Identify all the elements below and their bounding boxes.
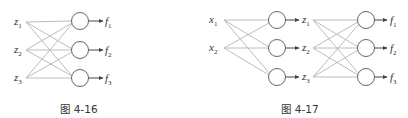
output-label-f3: f3 — [390, 71, 397, 86]
neuron-node — [358, 40, 375, 57]
edges-4-17-layer2 — [313, 20, 359, 77]
output-label-f1: f1 — [390, 14, 397, 29]
neuron-node — [72, 42, 89, 59]
edges-4-16 — [26, 21, 72, 78]
hidden-labels-4-17: z1 z2 z3 — [301, 13, 310, 85]
output-label-f3: f3 — [105, 72, 112, 87]
figure-4-17: x1 x2 z1 z2 z3 — [208, 12, 397, 116]
output-arrows-4-17 — [375, 20, 388, 77]
hidden-label-z1: z1 — [301, 13, 310, 28]
input-label-z3: z3 — [13, 71, 22, 86]
neuron-node — [358, 69, 375, 86]
input-labels-4-17: x1 x2 — [208, 13, 218, 56]
edges-4-17-layer1 — [224, 20, 270, 75]
figure-caption: 图 4-16 — [60, 103, 97, 115]
output-label-f1: f1 — [105, 15, 112, 30]
input-label-x1: x1 — [208, 13, 218, 28]
output-arrows-4-16 — [89, 21, 104, 78]
input-label-z1: z1 — [13, 15, 22, 30]
input-label-z2: z2 — [13, 43, 22, 58]
output-labels-4-16: f1 f2 f3 — [105, 15, 112, 87]
neuron-node — [72, 13, 89, 30]
figure-caption: 图 4-17 — [281, 103, 318, 115]
neurons-4-17-layer1 — [269, 12, 286, 86]
diagram-canvas: z1 z2 z3 f1 f2 f3 图 4-16 — [0, 0, 408, 118]
output-labels-4-17: f1 f2 f3 — [390, 14, 397, 86]
input-labels-4-16: z1 z2 z3 — [13, 15, 22, 86]
hidden-label-z2: z2 — [301, 41, 310, 56]
neurons-4-17-layer2 — [358, 12, 375, 86]
neuron-node — [269, 40, 286, 57]
hidden-label-z3: z3 — [301, 70, 310, 85]
neuron-node — [72, 70, 89, 87]
neuron-node — [269, 12, 286, 29]
neuron-node — [269, 69, 286, 86]
hidden-arrows-4-17 — [286, 20, 300, 77]
neuron-node — [358, 12, 375, 29]
input-label-x2: x2 — [208, 41, 218, 56]
output-label-f2: f2 — [105, 44, 112, 59]
neurons-4-16 — [72, 13, 89, 87]
figure-4-16: z1 z2 z3 f1 f2 f3 图 4-16 — [13, 13, 112, 116]
output-label-f2: f2 — [390, 42, 397, 57]
